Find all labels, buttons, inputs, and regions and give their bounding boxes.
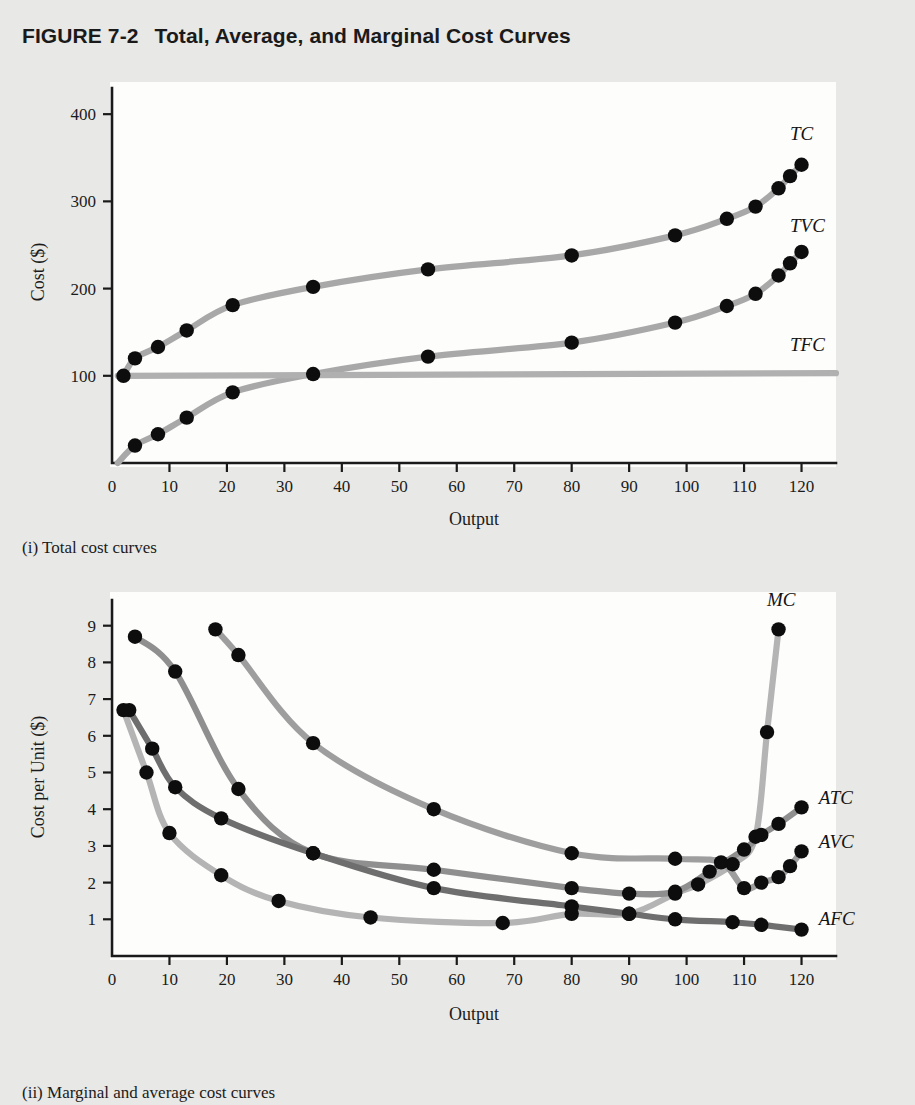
data-point-tvc — [668, 315, 682, 329]
data-point-afc — [668, 912, 682, 926]
x-tick-label: 30 — [276, 477, 293, 496]
figure-title-text: Total, Average, and Marginal Cost Curves — [155, 24, 571, 47]
data-point-tc — [151, 340, 165, 354]
y-tick-label: 9 — [88, 617, 97, 636]
data-point-tc — [794, 158, 808, 172]
x-tick-label: 0 — [108, 477, 117, 496]
y-tick-label: 3 — [88, 837, 97, 856]
data-point-atc — [564, 881, 578, 895]
x-tick-label: 0 — [108, 970, 117, 989]
x-tick-label: 10 — [161, 970, 178, 989]
curve-label-avc: AVC — [817, 831, 854, 852]
x-tick-label: 20 — [218, 477, 235, 496]
data-point-atc — [737, 842, 751, 856]
data-point-mc — [214, 868, 228, 882]
y-tick-label: 6 — [88, 727, 97, 746]
data-point-avc — [794, 844, 808, 858]
data-point-atc — [128, 630, 142, 644]
data-point-atc — [771, 817, 785, 831]
data-point-tc — [225, 298, 239, 312]
x-tick-label: 70 — [506, 477, 523, 496]
y-tick-label: 5 — [88, 763, 97, 782]
data-point-avc — [668, 852, 682, 866]
y-tick-label: 7 — [88, 690, 97, 709]
data-point-tc — [783, 169, 797, 183]
data-point-tvc — [306, 367, 320, 381]
data-point-mc — [760, 725, 774, 739]
data-point-tc — [421, 262, 435, 276]
data-point-tvc — [151, 427, 165, 441]
panel-caption-ii: (ii) Marginal and average cost curves — [22, 1083, 275, 1103]
data-point-tvc — [771, 268, 785, 282]
x-axis-title: Output — [449, 509, 499, 529]
x-tick-label: 60 — [448, 970, 465, 989]
curve-label-atc: ATC — [817, 787, 853, 808]
x-tick-label: 20 — [218, 970, 235, 989]
data-point-avc — [306, 736, 320, 750]
data-point-afc — [622, 907, 636, 921]
data-point-avc — [564, 846, 578, 860]
x-tick-label: 50 — [391, 970, 408, 989]
y-tick-label: 1 — [88, 910, 97, 929]
panel-caption-i: (i) Total cost curves — [22, 538, 157, 558]
y-tick-label: 300 — [71, 192, 97, 211]
x-tick-label: 100 — [674, 970, 700, 989]
data-point-tvc — [748, 287, 762, 301]
x-tick-label: 80 — [563, 477, 580, 496]
chart-svg-unit-cost: 0102030405060708090100110120123456789Out… — [0, 592, 915, 1072]
data-point-afc — [145, 741, 159, 755]
data-point-tc — [128, 351, 142, 365]
y-tick-label: 8 — [88, 653, 97, 672]
curve-tc — [123, 165, 801, 376]
data-point-atc — [702, 864, 716, 878]
x-tick-label: 40 — [333, 970, 350, 989]
data-point-avc — [771, 870, 785, 884]
chart-panel-total-cost: 0102030405060708090100110120100200300400… — [0, 82, 915, 532]
y-axis-title: Cost per Unit ($) — [28, 716, 49, 838]
y-tick-label: 100 — [71, 367, 97, 386]
data-point-mc — [139, 765, 153, 779]
x-tick-label: 30 — [276, 970, 293, 989]
data-point-tc — [720, 212, 734, 226]
data-point-tvc — [794, 245, 808, 259]
data-point-atc — [754, 828, 768, 842]
data-point-tc — [564, 248, 578, 262]
data-point-tvc — [128, 438, 142, 452]
data-point-tvc — [564, 335, 578, 349]
figure-title: FIGURE 7-2Total, Average, and Marginal C… — [22, 24, 571, 48]
data-point-avc — [231, 648, 245, 662]
x-tick-label: 90 — [621, 970, 638, 989]
data-point-avc — [754, 875, 768, 889]
data-point-mc — [162, 826, 176, 840]
data-point-mc — [363, 910, 377, 924]
data-point-tvc — [179, 410, 193, 424]
data-point-tc — [116, 369, 130, 383]
x-tick-label: 40 — [333, 477, 350, 496]
data-point-tc — [306, 280, 320, 294]
data-point-mc — [271, 894, 285, 908]
data-point-atc — [427, 863, 441, 877]
data-point-afc — [564, 899, 578, 913]
chart-panel-unit-cost: 0102030405060708090100110120123456789Out… — [0, 592, 915, 1072]
data-point-tvc — [225, 385, 239, 399]
x-tick-label: 110 — [732, 970, 757, 989]
data-point-afc — [754, 918, 768, 932]
curve-atc — [135, 637, 802, 895]
data-point-tvc — [720, 299, 734, 313]
x-tick-label: 60 — [448, 477, 465, 496]
data-point-tvc — [421, 349, 435, 363]
data-point-tc — [668, 228, 682, 242]
y-tick-label: 4 — [88, 800, 97, 819]
curve-label-tvc: TVC — [790, 215, 825, 236]
x-tick-label: 80 — [563, 970, 580, 989]
figure-number: FIGURE 7-2 — [22, 24, 139, 47]
y-axis-title: Cost ($) — [28, 243, 49, 302]
data-point-afc — [427, 881, 441, 895]
data-point-atc — [668, 885, 682, 899]
data-point-atc — [794, 800, 808, 814]
x-tick-label: 90 — [621, 477, 638, 496]
x-tick-label: 120 — [789, 970, 815, 989]
y-tick-label: 200 — [71, 280, 97, 299]
x-tick-label: 100 — [674, 477, 700, 496]
x-tick-label: 10 — [161, 477, 178, 496]
